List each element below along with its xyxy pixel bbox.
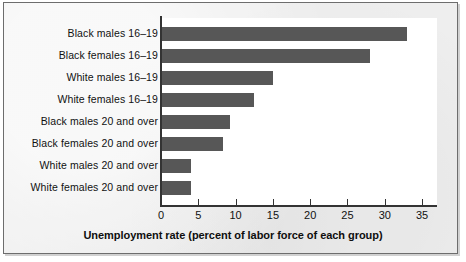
x-axis-tick xyxy=(161,199,162,206)
x-axis-tick xyxy=(385,199,386,206)
category-label: Black females 20 and over xyxy=(10,136,158,150)
category-label: Black males 20 and over xyxy=(10,114,158,128)
category-label: White males 16–19 xyxy=(10,70,158,84)
x-axis-tick-label: 25 xyxy=(332,209,362,221)
category-label: White females 20 and over xyxy=(10,180,158,194)
category-label: White females 16–19 xyxy=(10,92,158,106)
y-axis-line xyxy=(160,16,162,207)
x-axis-tick-label: 30 xyxy=(370,209,400,221)
bar-chart-figure: Black males 16–19Black females 16–19Whit… xyxy=(0,0,466,262)
bar xyxy=(161,181,191,195)
bar xyxy=(161,71,273,85)
bar xyxy=(161,159,191,173)
x-axis-tick xyxy=(347,199,348,206)
x-axis-line xyxy=(161,205,437,207)
x-axis-tick-label: 15 xyxy=(258,209,288,221)
x-axis-tick xyxy=(198,199,199,206)
bar xyxy=(161,137,223,151)
x-axis-tick-label: 5 xyxy=(183,209,213,221)
x-axis-tick xyxy=(310,199,311,206)
x-axis-title: Unemployment rate (percent of labor forc… xyxy=(0,229,466,241)
bar xyxy=(161,27,407,41)
category-label: Black females 16–19 xyxy=(10,48,158,62)
bar xyxy=(161,93,254,107)
x-axis-tick-label: 20 xyxy=(295,209,325,221)
bar xyxy=(161,49,370,63)
bar xyxy=(161,115,230,129)
plot-area xyxy=(161,18,437,205)
category-label: Black males 16–19 xyxy=(10,26,158,40)
category-label: White males 20 and over xyxy=(10,158,158,172)
category-label-group: Black males 16–19Black females 16–19Whit… xyxy=(10,24,158,200)
x-axis-tick xyxy=(236,199,237,206)
x-axis-tick xyxy=(422,199,423,206)
x-axis-tick-label: 10 xyxy=(221,209,251,221)
x-axis-tick xyxy=(273,199,274,206)
x-axis-tick-label: 0 xyxy=(146,209,176,221)
x-axis-tick-label: 35 xyxy=(407,209,437,221)
